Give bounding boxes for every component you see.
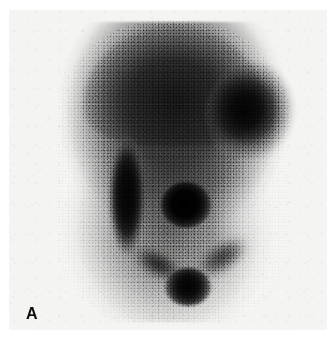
plate-vignette — [9, 10, 327, 330]
right-oblique-tract — [173, 209, 271, 305]
speckle-coarse-layer — [55, 20, 291, 326]
speckle-fine-layer — [55, 20, 291, 326]
scintigram-photographic-plate — [9, 10, 327, 330]
figure-panel-a: A — [0, 0, 336, 345]
photon-noise-region — [55, 20, 291, 326]
elongated-vertical-band-left — [109, 134, 145, 258]
left-oblique-tract — [116, 224, 201, 304]
panel-label: A — [26, 306, 38, 322]
paper-grain-texture — [9, 10, 327, 330]
photopenic-zone-right — [207, 178, 283, 256]
central-focal-hot-spot — [161, 182, 211, 228]
diffuse-uptake-field — [61, 22, 285, 322]
superior-dome-border — [83, 26, 265, 146]
speckle-medium-layer — [55, 20, 291, 326]
dense-focus-upper-right — [205, 62, 301, 166]
inferior-midline-hot-spot — [165, 268, 211, 306]
